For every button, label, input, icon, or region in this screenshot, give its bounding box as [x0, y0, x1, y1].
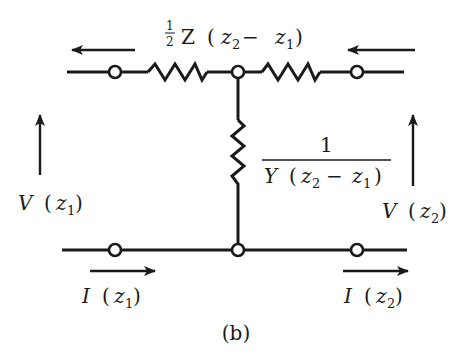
- z-symbol: Z: [181, 25, 195, 49]
- terminal-top-left: [109, 66, 121, 78]
- voltage-right-label: V ( z 2 ): [382, 199, 447, 226]
- paren-open: (: [44, 191, 52, 215]
- sub-1: 1: [363, 176, 371, 191]
- i-symbol: I: [343, 284, 353, 308]
- paren-open: (: [364, 284, 372, 308]
- var-z2: z: [220, 25, 232, 49]
- var-z: z: [375, 284, 387, 308]
- frac-denominator: 2: [166, 35, 174, 49]
- i-symbol: I: [81, 284, 91, 308]
- var-z2: z: [300, 164, 312, 188]
- series-resistor-left: [148, 64, 207, 80]
- sub-1: 1: [286, 37, 294, 52]
- series-impedance-label: 1 2 Z ( z 2 − z 1 ): [165, 19, 303, 52]
- series-resistor-right: [262, 64, 320, 80]
- node-top-center: [232, 66, 244, 78]
- paren-close: ): [133, 284, 141, 308]
- minus: −: [242, 25, 259, 49]
- minus: −: [326, 164, 343, 188]
- paren-open: (: [102, 284, 110, 308]
- var-z: z: [113, 284, 125, 308]
- figure-caption: (b): [222, 321, 250, 345]
- paren-open: (: [408, 199, 416, 223]
- paren-close: ): [295, 25, 303, 49]
- shunt-resistor: [232, 120, 244, 188]
- var-z: z: [419, 199, 431, 223]
- shunt-impedance-label: 1 Y ( z 2 − z 1 ): [262, 133, 391, 191]
- v-symbol: V: [382, 199, 399, 223]
- var-z1: z: [274, 25, 286, 49]
- terminal-top-right: [351, 66, 363, 78]
- shunt-numerator: 1: [320, 133, 333, 157]
- terminal-bottom-right: [351, 244, 363, 256]
- sub-2: 2: [312, 176, 320, 191]
- paren-close: ): [439, 199, 447, 223]
- var-z: z: [55, 191, 67, 215]
- sub-2: 2: [232, 37, 240, 52]
- var-z1: z: [351, 164, 363, 188]
- y-symbol: Y: [264, 164, 279, 188]
- frac-numerator: 1: [166, 19, 174, 33]
- voltage-left-label: V ( z 1 ): [18, 191, 83, 218]
- paren-open: (: [207, 25, 215, 49]
- current-left-label: I ( z 1 ): [81, 284, 141, 311]
- paren-close: ): [75, 191, 83, 215]
- t-network-diagram: 1 2 Z ( z 2 − z 1 ) 1 Y ( z 2 − z 1 ) V …: [0, 0, 453, 358]
- paren-open: (: [289, 164, 297, 188]
- paren-close: ): [395, 284, 403, 308]
- paren-close: ): [374, 164, 382, 188]
- terminal-bottom-left: [109, 244, 121, 256]
- current-right-label: I ( z 2 ): [343, 284, 403, 311]
- node-bottom-center: [232, 244, 244, 256]
- v-symbol: V: [18, 191, 35, 215]
